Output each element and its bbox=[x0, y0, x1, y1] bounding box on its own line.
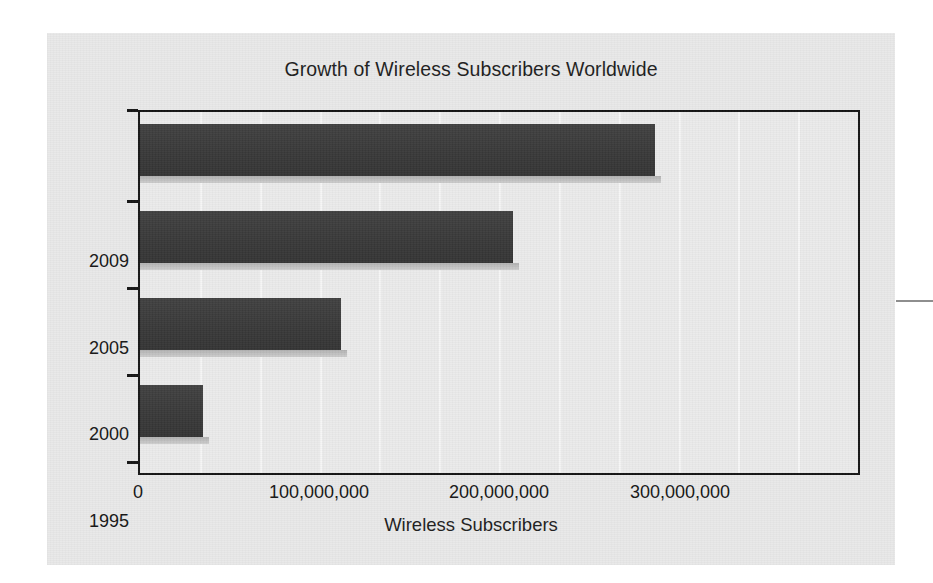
x-tick-label-0: 0 bbox=[133, 482, 143, 503]
bar-2009[interactable] bbox=[140, 124, 655, 176]
y-axis: 2009 2005 2000 1995 bbox=[47, 110, 129, 475]
y-tick-label-2009: 2009 bbox=[89, 251, 129, 272]
bar-shadow-2009 bbox=[140, 176, 661, 183]
bar-2005[interactable] bbox=[140, 211, 513, 263]
y-tick-mark-bottom bbox=[127, 461, 138, 464]
x-tick-label-300m: 300,000,000 bbox=[630, 482, 730, 503]
chart-title: Growth of Wireless Subscribers Worldwide bbox=[47, 58, 895, 81]
bar-shadow-1995 bbox=[140, 437, 209, 444]
y-tick-label-2000: 2000 bbox=[89, 424, 129, 445]
y-tick-mark-3 bbox=[127, 374, 138, 377]
x-axis: 0 100,000,000 200,000,000 300,000,000 bbox=[138, 482, 860, 508]
bar-2000[interactable] bbox=[140, 298, 341, 350]
plot-inner bbox=[140, 112, 858, 473]
bar-shadow-2005 bbox=[140, 263, 519, 270]
plot-area bbox=[138, 110, 860, 475]
gridline-10 bbox=[738, 112, 740, 473]
y-tick-label-2005: 2005 bbox=[89, 338, 129, 359]
gridline-11 bbox=[798, 112, 800, 473]
x-tick-label-100m: 100,000,000 bbox=[269, 482, 369, 503]
x-tick-label-200m: 200,000,000 bbox=[449, 482, 549, 503]
bar-shadow-2000 bbox=[140, 350, 347, 357]
margin-rule bbox=[896, 300, 933, 302]
gridline-9 bbox=[679, 112, 681, 473]
x-axis-label: Wireless Subscribers bbox=[47, 514, 895, 536]
y-tick-mark-1 bbox=[127, 200, 138, 203]
bar-1995[interactable] bbox=[140, 385, 203, 437]
chart-figure-panel: Growth of Wireless Subscribers Worldwide… bbox=[47, 33, 895, 565]
y-tick-mark-2 bbox=[127, 287, 138, 290]
y-tick-mark-top bbox=[127, 109, 138, 112]
